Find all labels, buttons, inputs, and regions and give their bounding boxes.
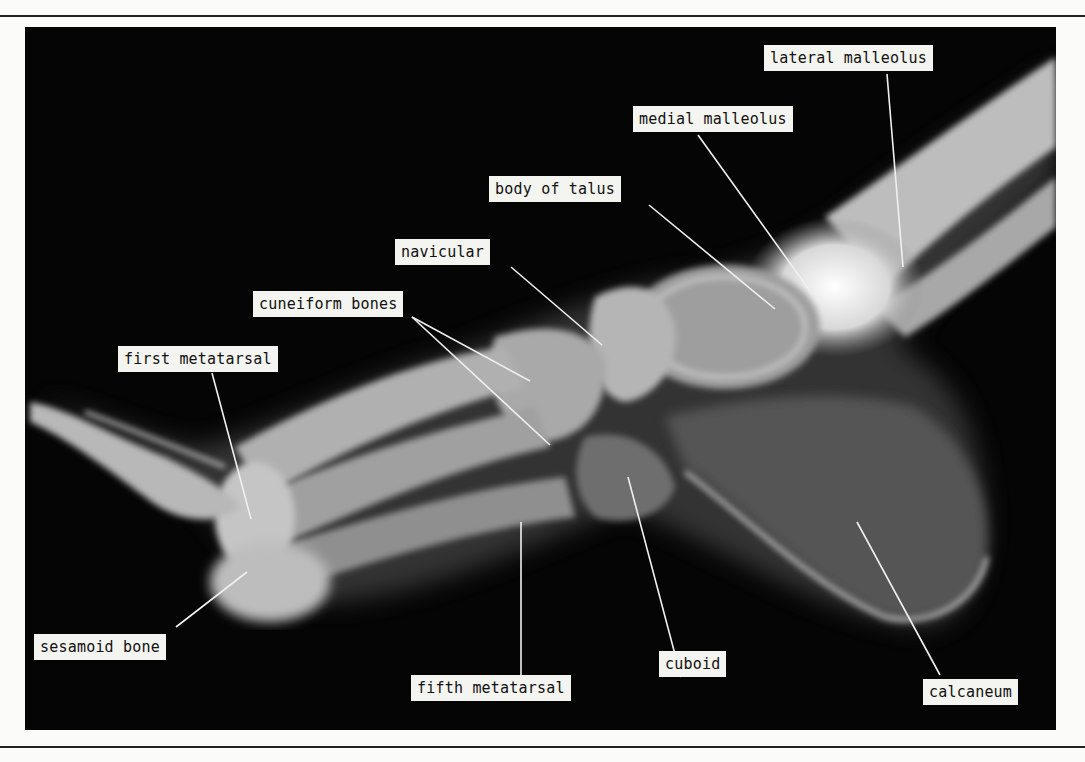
label-cuneiform-bones: cuneiform bones	[253, 291, 403, 317]
label-medial-malleolus: medial malleolus	[633, 106, 793, 132]
label-body-of-talus: body of talus	[489, 176, 621, 202]
label-navicular: navicular	[395, 239, 490, 265]
bottom-rule	[0, 746, 1085, 748]
top-rule	[0, 15, 1085, 17]
label-first-metatarsal: first metatarsal	[118, 346, 278, 372]
label-calcaneum: calcaneum	[923, 679, 1018, 705]
label-lateral-malleolus: lateral malleolus	[764, 45, 933, 71]
xray-image: lateral malleolus medial malleolus body …	[25, 27, 1056, 730]
label-fifth-metatarsal: fifth metatarsal	[411, 675, 571, 701]
foot-radiograph-drawing	[25, 27, 1056, 730]
label-cuboid: cuboid	[659, 651, 726, 677]
label-sesamoid-bone: sesamoid bone	[34, 634, 166, 660]
